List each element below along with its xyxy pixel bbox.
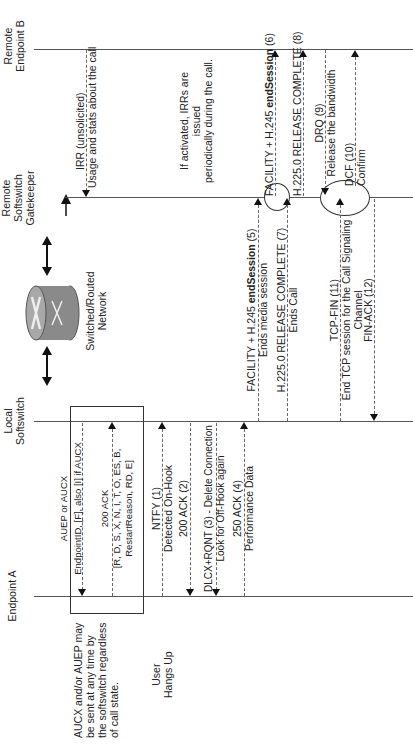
label-line: AUEP or AUCX	[58, 421, 70, 596]
label-line: IRR (unsolicited)	[74, 42, 86, 188]
note-line: be sent at any time by	[84, 622, 96, 738]
label-drq: DRQ (9) Release the bandwidth	[313, 50, 337, 196]
note-irr-periodic: If activated, IRRs are issued periodical…	[178, 56, 214, 186]
label-line: 200 ACK	[99, 421, 111, 596]
label-line: 250 ACK (4)	[231, 421, 243, 596]
note-line: Hangs Up	[162, 651, 174, 698]
label-facility-6: FACILITY + H.245 endSession (6)	[263, 50, 275, 196]
label-200-ack-2: 200 ACK (2)	[177, 421, 189, 596]
label-line: Confirm	[355, 86, 367, 186]
header-line: Softswitch	[14, 386, 26, 456]
header-endpoint-b: Remote Endpoint B	[2, 11, 26, 81]
header-line: Switched/Routed	[84, 261, 96, 361]
note-line: User	[150, 651, 162, 698]
label-dlcx: DLCX+RQNT (3) - Delete Connection Look f…	[203, 421, 227, 596]
label-line: FACILITY + H.245 endSession (5)	[245, 199, 257, 421]
note-line: periodically during the call.	[202, 56, 214, 186]
label-line: RestartReason, RD, E]	[123, 421, 135, 596]
header-local-softswitch: Local Softswitch	[2, 386, 26, 456]
note-line: AUCX and/or AUEP may	[72, 622, 84, 738]
arrow-head-icon	[351, 50, 359, 57]
router-icon	[22, 283, 80, 343]
header-line: Endpoint B	[14, 11, 26, 81]
label-release-complete-8: H.225.0 RELEASE COMPLETE (8)	[291, 50, 303, 196]
label-facility-5: FACILITY + H.245 endSession (5) Ends med…	[245, 199, 269, 421]
bidirectional-arrow-icon	[40, 346, 54, 386]
sequence-diagram: Endpoint A Local Softswitch Switched/Rou…	[0, 0, 413, 746]
header-line: Network	[96, 261, 108, 361]
label-line: DCF (10)	[343, 86, 355, 186]
note-line: If activated, IRRs are issued	[178, 56, 202, 186]
header-endpoint-a: Endpoint A	[6, 556, 18, 636]
label-part: (5)	[245, 229, 257, 245]
note-line: the softswitch regardless	[96, 622, 108, 738]
note-user-hangs-up: User Hangs Up	[150, 651, 174, 698]
header-gatekeeper: Remote Softswitch Gatekeeper	[0, 163, 36, 233]
message-facility-6	[275, 57, 276, 196]
header-network: Switched/Routed Network	[84, 261, 108, 361]
note-audit: AUCX and/or AUEP may be sent at any time…	[72, 622, 120, 738]
label-line: EndpointID, [F], also [I] if AUCX	[72, 421, 84, 596]
label-line: Look for Off-Hook again	[215, 421, 227, 596]
label-line: Usage and stats about the call	[86, 42, 98, 188]
label-250-ack: 250 ACK (4) Performance Data	[231, 421, 255, 596]
label-part: FACILITY + H.245	[263, 108, 275, 196]
label-line: Performance Data	[243, 421, 255, 596]
message-release-complete-8	[303, 57, 304, 196]
header-line: Gatekeeper	[24, 163, 36, 233]
label-part: (6)	[263, 33, 275, 49]
header-line: Remote	[0, 163, 12, 233]
label-irr: IRR (unsolicited) Usage and stats about …	[74, 42, 98, 196]
label-fin-ack: FIN-ACK (12)	[362, 199, 374, 421]
label-200-ack: 200 ACK [R, D, S, X, N, I, T, O, ES, B, …	[99, 421, 135, 596]
label-line: H.225.0 RELEASE COMPLETE (7)	[275, 199, 287, 421]
label-line: Ends media session	[257, 199, 269, 421]
label-dcf: DCF (10) Confirm	[343, 86, 367, 186]
label-part: endSession	[263, 49, 275, 108]
message-200-ack-2	[190, 423, 191, 595]
header-line: Local	[2, 386, 14, 456]
header-line: Remote	[2, 11, 14, 81]
label-tcp-fin: TCP-FIN (11) End TCP session for the Cal…	[328, 199, 364, 421]
bidirectional-arrow-icon	[40, 236, 54, 276]
label-part: FACILITY + H.245	[245, 303, 257, 391]
label-line: Release the bandwidth	[325, 50, 337, 196]
label-part: endSession	[245, 244, 257, 303]
note-line: of call state.	[108, 622, 120, 738]
label-line: Detected On-Hook	[162, 421, 174, 596]
label-ntfy: NTFY (1) Detected On-Hook	[150, 421, 174, 596]
label-line: NTFY (1)	[150, 421, 162, 596]
label-line: DLCX+RQNT (3) - Delete Connection	[203, 421, 215, 596]
header-line: Softswitch	[12, 163, 24, 233]
label-release-complete-7: H.225.0 RELEASE COMPLETE (7) Ends Call	[275, 199, 299, 421]
label-auep: AUEP or AUCX EndpointID, [F], also [I] i…	[70, 421, 84, 596]
label-line: [R, D, S, X, N, I, T, O, ES, B,	[111, 421, 123, 596]
label-line: Ends Call	[287, 199, 299, 421]
label-line: DRQ (9)	[313, 50, 325, 196]
label-line: End TCP session for the Call Signaling	[340, 199, 352, 421]
message-fin-ack	[374, 199, 375, 419]
label-line: TCP-FIN (11)	[328, 199, 340, 421]
